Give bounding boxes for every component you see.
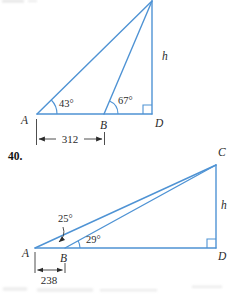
angle-a-value: 43° — [59, 98, 74, 109]
base-measure-value: 312 — [62, 133, 79, 145]
angle-b-value: 67° — [118, 95, 133, 106]
diagram-40: 40. 25° 29° h A B C D — [8, 146, 227, 286]
vertex-d-label: D — [217, 250, 227, 262]
textbook-figure-page: 43° 67° h A B D 312 40. — [0, 0, 227, 295]
height-label: h — [162, 50, 168, 62]
angle-a-value: 25° — [58, 213, 73, 224]
cropped-text-artifact-top — [2, 0, 37, 2]
vertex-c-label: C — [218, 146, 226, 158]
cropped-text-artifact-bottom — [3, 286, 222, 292]
angle-arc-b — [78, 241, 80, 248]
side-line-ac — [35, 165, 216, 248]
vertex-a-label: A — [20, 114, 29, 126]
right-angle-mark-d — [143, 105, 152, 114]
angle-b-value: 29° — [86, 234, 101, 245]
side-line-a-apex — [37, 1, 152, 114]
problem-number: 40. — [8, 150, 23, 162]
angle-arc-a — [51, 100, 57, 114]
base-measure-value: 238 — [41, 274, 58, 286]
vertex-a-label: A — [21, 247, 30, 259]
base-measurement: 312 — [37, 119, 105, 145]
vertex-b-label: B — [60, 252, 67, 264]
angle-arc-b — [110, 101, 119, 114]
right-angle-mark-d — [207, 239, 216, 248]
height-label: h — [221, 199, 227, 211]
vertex-b-label: B — [100, 119, 107, 131]
geometry-diagrams-svg: 43° 67° h A B D 312 40. — [0, 0, 227, 295]
diagram-39: 43° 67° h A B D 312 — [20, 1, 168, 145]
vertex-d-label: D — [154, 117, 164, 129]
